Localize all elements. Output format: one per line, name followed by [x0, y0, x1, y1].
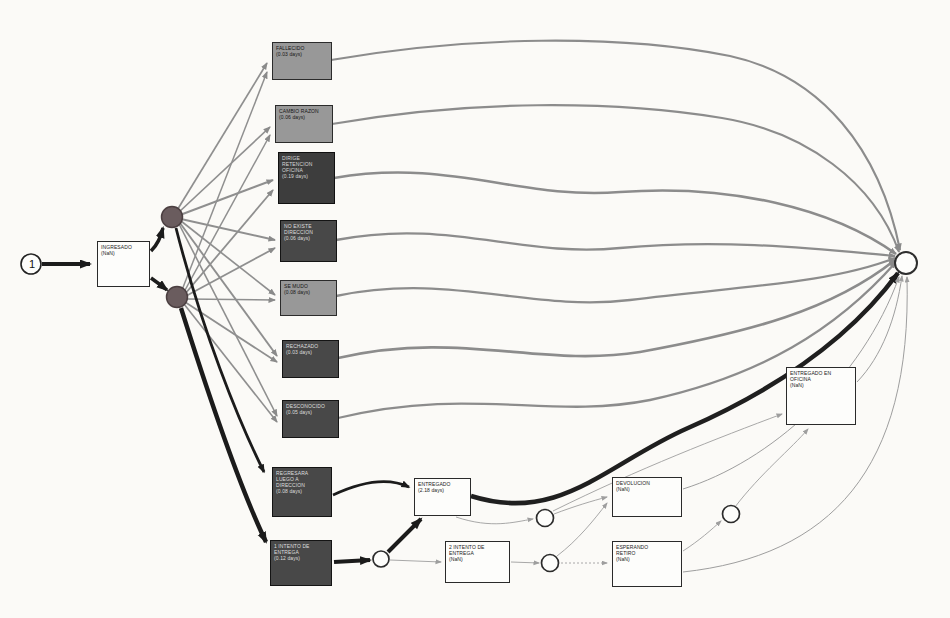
- edge-circle1-intento2: [390, 560, 441, 562]
- end-node: [895, 252, 917, 274]
- state-entregado-en-oficina: ENTREGADO EN OFICINA (NaN): [786, 367, 856, 425]
- edge-intento1-circle1: [334, 560, 370, 562]
- junction-dot-1: [162, 207, 183, 228]
- edge-entregado-circle2: [456, 517, 533, 524]
- state-1-intento-de-entrega: 1 INTENTO DE ENTREGA (0.12 days): [270, 540, 332, 586]
- edge-regresara-entregado: [333, 482, 409, 495]
- gateway-circle-1: [373, 551, 389, 567]
- edge-cambio-razon-end: [332, 105, 899, 252]
- edge-intento2-circle3: [511, 562, 539, 563]
- edge-ingresado-junction1: [151, 228, 163, 251]
- state-no-existe-direccion: NO EXISTE DIRECCION (0.06 days): [280, 220, 337, 262]
- edge-j2-no-existe: [186, 248, 275, 296]
- state-esperando-retiro: ESPERANDO RETIRO (NaN): [612, 541, 682, 587]
- edge-j1-no-existe: [181, 219, 275, 240]
- state-2-intento-de-entrega: 2 INTENTO DE ENTREGA (NaN): [445, 541, 510, 583]
- edge-no-existe-end: [336, 233, 895, 256]
- gateway-circle-3: [542, 555, 559, 572]
- edge-j2-dirige-retencion: [185, 190, 273, 294]
- edge-oficina-end: [857, 276, 902, 382]
- edge-j2-cambio-razon: [184, 135, 270, 292]
- state-se-mudo: SE MUDO (0.08 days): [280, 280, 337, 316]
- edge-esperando-circle4: [683, 521, 721, 551]
- gateway-circle-4: [723, 506, 740, 523]
- state-dirige-retencion-oficina: DIRIGE RETENCION OFICINA (0.19 days): [278, 152, 335, 204]
- edge-se-mudo-end: [336, 258, 895, 302]
- edge-circle3-devolucion: [557, 503, 607, 556]
- edge-dirige-retencion-end: [334, 173, 896, 254]
- state-cambio-razon: CAMBIO RAZON (0.06 days): [275, 105, 333, 143]
- junction-dot-2: [167, 287, 188, 308]
- gateway-circle-2: [537, 510, 554, 527]
- edge-j2-intento1: [181, 308, 266, 542]
- state-rechazado: RECHAZADO (0.03 days): [282, 340, 339, 378]
- edge-j1-cambio-razon: [178, 127, 270, 213]
- state-regresara-luego-a-direccion: REGRESARA LUEGO A DIRECCION (0.08 days): [272, 467, 332, 517]
- start-node-label: 1: [22, 254, 42, 274]
- state-entregado: ENTREGADO (2.18 days): [414, 478, 471, 516]
- edge-circle4-oficina: [735, 429, 808, 507]
- edge-circle1-entregado: [388, 519, 421, 552]
- edge-ingresado-junction2: [151, 278, 167, 290]
- edge-fallecido-end: [331, 41, 900, 250]
- state-desconocido: DESCONOCIDO (0.05 days): [282, 400, 339, 438]
- state-devolucion: DEVOLUCION (NaN): [612, 477, 682, 517]
- edge-rechazado-end: [338, 260, 895, 358]
- edge-j2-se-mudo: [186, 299, 275, 300]
- edges-layer: [0, 0, 950, 618]
- edge-circle2-devolucion: [554, 497, 607, 514]
- process-diagram: 1 INGRESADO (NaN) FALLECIDO (0.03 days) …: [0, 0, 950, 618]
- state-ingresado: INGRESADO (NaN): [97, 241, 150, 287]
- state-fallecido: FALLECIDO (0.03 days): [272, 42, 332, 80]
